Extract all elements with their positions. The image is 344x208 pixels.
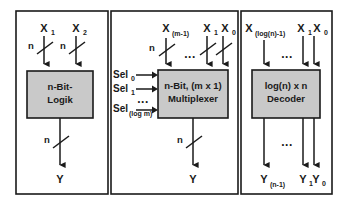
mux-output-y-label: Y [189, 173, 197, 185]
panel-multiplexer: X (m-1) n ... X 1 X 0 Sel 0 [111, 11, 238, 194]
dec-input-x1-label: X [297, 22, 305, 34]
dec-input-x1-subscript: 1 [308, 29, 312, 36]
dec-input-x0-subscript: 0 [324, 29, 328, 36]
input-x2-label: X [72, 22, 80, 34]
dec-output-y0-subscript: 0 [322, 180, 326, 187]
mux-select-sel0-subscript: 0 [131, 75, 135, 82]
mux-input-x1-label: X [203, 22, 211, 34]
mux-input-x0-label: X [221, 22, 229, 34]
dec-output-y0-label: Y [312, 173, 320, 185]
block-n-bit-logik-label-line2: Logik [47, 94, 73, 105]
mux-select-sel1-label: Sel [113, 83, 128, 94]
mux-input-xm1-subscript: (m-1) [172, 30, 189, 38]
input-x1-subscript: 1 [51, 29, 55, 36]
mux-input-xm1-width-label: n [149, 42, 155, 53]
dec-input-xlogn1-subscript: (log(n)-1) [255, 30, 285, 38]
logic-blocks-diagram: X 1 n X 2 n n-Bit- Logik n Y [0, 0, 344, 208]
diagram-canvas: X 1 n X 2 n n-Bit- Logik n Y [0, 0, 344, 208]
block-n-bit-logik-label-line1: n-Bit- [48, 81, 73, 92]
dec-output-yn1-subscript: (n-1) [270, 181, 285, 189]
input-x2-subscript: 2 [83, 29, 87, 36]
mux-select-sellogm-subscript: (log m) [129, 110, 152, 118]
mux-output-y-width-label: n [177, 134, 183, 145]
mux-input-x1-subscript: 1 [214, 29, 218, 36]
mux-select-sel0-label: Sel [113, 69, 128, 80]
mux-input-ellipsis: ... [184, 47, 196, 61]
mux-input-x0-subscript: 0 [232, 29, 236, 36]
dec-output-y1-label: Y [299, 173, 307, 185]
mux-select-sellogm-label: Sel [113, 103, 128, 114]
block-multiplexer-label-line2: Multiplexer [168, 93, 218, 104]
input-x1-width-label: n [28, 40, 34, 51]
block-decoder-label-line2: Decoder [267, 93, 305, 104]
mux-input-xm1-label: X [162, 22, 170, 34]
mux-select-sel1-subscript: 1 [131, 89, 135, 96]
dec-input-ellipsis: ... [281, 47, 293, 61]
panel-logic: X 1 n X 2 n n-Bit- Logik n Y [16, 11, 108, 194]
mux-select-ellipsis: ... [137, 92, 149, 106]
block-multiplexer-label-line1: n-Bit, (m x 1) [164, 80, 222, 91]
input-x1-label: X [40, 22, 48, 34]
dec-input-x0-label: X [313, 22, 321, 34]
dec-input-xlogn1-label: X [245, 22, 253, 34]
dec-output-ellipsis: ... [281, 135, 293, 149]
output-y-label: Y [56, 173, 64, 185]
input-x2-width-label: n [60, 40, 66, 51]
panel-decoder: X (log(n)-1) ... X 1 X 0 log(n) x n Deco… [241, 11, 332, 194]
dec-output-yn1-label: Y [260, 173, 268, 185]
block-decoder-label-line1: log(n) x n [265, 80, 308, 91]
output-y-width-label: n [44, 134, 50, 145]
